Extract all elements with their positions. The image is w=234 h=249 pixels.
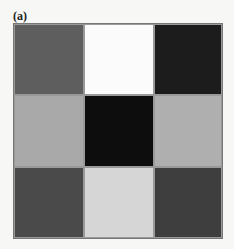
grid-cell-r0-c0: [14, 24, 84, 95]
grid-cell-r2-c1: [84, 167, 154, 238]
grid-cell-r1-c1: [84, 95, 154, 167]
grid-cell-r2-c0: [14, 167, 84, 238]
grid-cell-r0-c1: [84, 24, 154, 95]
figure-label: (a): [13, 9, 27, 24]
grid-cell-r2-c2: [154, 167, 222, 238]
grid-cell-r0-c2: [154, 24, 222, 95]
grid-cell-r1-c0: [14, 95, 84, 167]
grid-cell-r1-c2: [154, 95, 222, 167]
grayscale-grid: [14, 24, 222, 238]
